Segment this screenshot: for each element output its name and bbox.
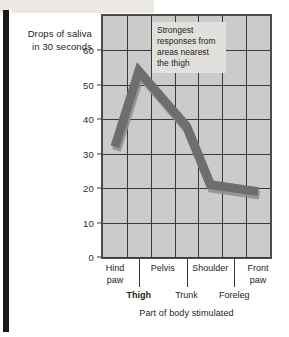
y-tick-label-40: 40 (83, 114, 94, 125)
y-tick-label-50: 50 (83, 79, 94, 90)
gridline-horizontal-0 (103, 257, 270, 258)
x-tick-label-shoulder: Shoulder (192, 263, 228, 275)
x-tick-label-thigh: Thigh (127, 290, 152, 300)
x-tick-label-hind-paw: Hindpaw (106, 263, 125, 286)
annotation-callout: Strongest responses from areas nearest t… (152, 22, 226, 73)
x-axis-title: Part of body stimulated (101, 308, 272, 318)
x-tick-extension-trunk (187, 259, 188, 287)
data-band (115, 71, 258, 192)
y-tick-label-20: 20 (83, 183, 94, 194)
y-tick-label-60: 60 (83, 45, 94, 56)
x-axis: HindpawThighPelvisTrunkShoulderForelegFr… (0, 259, 289, 309)
x-tick-extension-foreleg (234, 259, 235, 287)
y-tick-label-30: 30 (83, 148, 94, 159)
x-tick-label-foreleg: Foreleg (219, 290, 250, 300)
figure-root: Drops of saliva in 30 seconds 6050403020… (0, 0, 289, 337)
x-tick-extension-thigh (139, 259, 140, 287)
y-tick-label-10: 10 (83, 217, 94, 228)
x-tick-label-trunk: Trunk (175, 290, 198, 300)
annotation-text: Strongest responses from areas nearest t… (157, 25, 216, 68)
x-tick-label-front-paw: Frontpaw (248, 263, 269, 286)
x-tick-label-pelvis: Pelvis (151, 263, 175, 275)
